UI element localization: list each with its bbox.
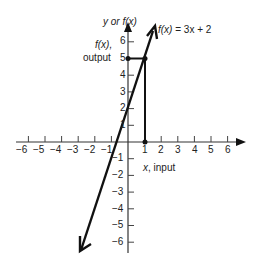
y-tick-label: −1	[112, 153, 123, 163]
function-label-rest: = 3x + 2	[172, 24, 211, 35]
y-tick-label: −3	[112, 187, 123, 197]
function-label-prefix: f(x)	[158, 24, 172, 35]
x-axis-arrow-icon	[236, 138, 246, 146]
x-tick-label: −1	[101, 145, 112, 155]
x-tick-label: −6	[16, 145, 27, 155]
y-tick-label: 3	[120, 87, 126, 97]
y-tick-label: 2	[120, 103, 126, 113]
output-point	[126, 56, 131, 61]
y-axis-label: y or f(x)	[103, 17, 137, 27]
x-axis-label: x, input	[143, 163, 175, 173]
y-tick-label: 1	[120, 120, 126, 130]
y-tick-label: 6	[120, 36, 126, 46]
function-point	[143, 56, 148, 61]
output-label-line1: f(x),	[95, 40, 112, 50]
x-tick-label: −2	[84, 145, 95, 155]
x-tick-label: −3	[67, 145, 78, 155]
y-tick-label: −2	[112, 170, 123, 180]
x-tick-label: 2	[158, 145, 164, 155]
y-tick-label: 5	[120, 53, 126, 63]
y-tick-label: −4	[112, 204, 123, 214]
x-axis-label-text: , input	[148, 162, 175, 173]
chart-canvas	[0, 0, 256, 267]
function-label: f(x) = 3x + 2	[158, 25, 211, 35]
function-line	[81, 31, 153, 250]
y-tick-label: 4	[120, 70, 126, 80]
x-tick-label: −4	[50, 145, 61, 155]
x-tick-label: 4	[192, 145, 198, 155]
y-tick-label: −5	[112, 220, 123, 230]
x-tick-label: 3	[175, 145, 181, 155]
x-tick-label: 1	[142, 145, 148, 155]
output-label-line2: output	[83, 53, 111, 63]
x-tick-label: −5	[33, 145, 44, 155]
x-tick-label: 6	[225, 145, 231, 155]
y-tick-label: −6	[112, 237, 123, 247]
x-tick-label: 5	[208, 145, 214, 155]
